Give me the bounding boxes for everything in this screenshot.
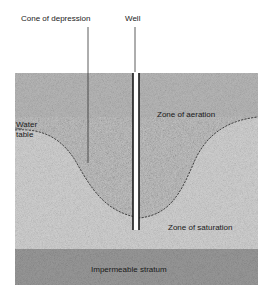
groundwater-diagram	[0, 0, 267, 292]
label-zone-of-aeration: Zone of aeration	[157, 110, 215, 119]
label-cone-of-depression: Cone of depression	[21, 14, 90, 23]
label-zone-of-saturation: Zone of saturation	[168, 223, 232, 232]
label-water-table-line2: table	[16, 130, 33, 139]
well-bore	[133, 73, 139, 230]
label-well: Well	[125, 14, 140, 23]
label-water-table-line1: Water	[16, 120, 37, 129]
label-impermeable-stratum: Impermeable stratum	[91, 265, 167, 274]
